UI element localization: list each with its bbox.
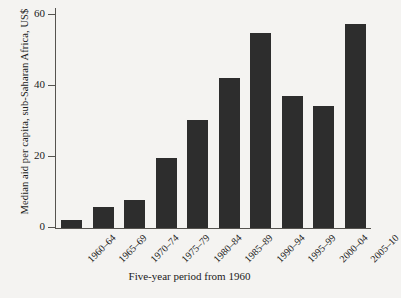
y-tick-label: 20 xyxy=(34,149,45,161)
x-axis-line xyxy=(55,228,371,229)
y-tick: 40 xyxy=(48,85,55,86)
bar-slot xyxy=(88,8,120,228)
bar[interactable] xyxy=(187,120,208,228)
y-axis-title: Median aid per capita, sub-Saharan Afric… xyxy=(19,2,30,222)
bar-slot xyxy=(56,8,88,228)
x-tick-label: 1975–79 xyxy=(179,232,212,265)
bar-slot xyxy=(277,8,309,228)
x-tick-label: 1965–69 xyxy=(116,232,149,265)
bar[interactable] xyxy=(282,96,303,228)
bar[interactable] xyxy=(124,200,145,228)
y-tick-label: 0 xyxy=(40,220,46,232)
y-tick-label: 60 xyxy=(34,7,45,19)
plot-area: 0204060 1960–641965–691970–741975–791980… xyxy=(55,8,371,228)
x-tick-label: 2005–10 xyxy=(368,232,401,265)
bar-series xyxy=(56,8,371,228)
x-tick-label: 2000–04 xyxy=(337,232,370,265)
bar[interactable] xyxy=(61,220,82,228)
y-tick: 60 xyxy=(48,14,55,15)
bar[interactable] xyxy=(156,158,177,228)
bar-slot xyxy=(340,8,372,228)
bar[interactable] xyxy=(313,106,334,228)
x-tick-label: 1990–94 xyxy=(274,232,307,265)
y-tick: 0 xyxy=(48,227,55,228)
x-tick-label: 1970–74 xyxy=(148,232,181,265)
bar-slot xyxy=(245,8,277,228)
x-tick-label: 1980–84 xyxy=(211,232,244,265)
x-tick-label: 1985–89 xyxy=(242,232,275,265)
bar[interactable] xyxy=(250,33,271,228)
bar-slot xyxy=(151,8,183,228)
y-tick: 20 xyxy=(48,156,55,157)
bar-slot xyxy=(119,8,151,228)
bar[interactable] xyxy=(93,207,114,228)
bar-slot xyxy=(308,8,340,228)
x-axis-title: Five-year period from 1960 xyxy=(0,270,379,282)
y-tick-label: 40 xyxy=(34,78,45,90)
bar[interactable] xyxy=(345,24,366,228)
bar-slot xyxy=(182,8,214,228)
x-tick-label: 1995–99 xyxy=(305,232,338,265)
bar[interactable] xyxy=(219,78,240,228)
bar-slot xyxy=(214,8,246,228)
x-tick-label: 1960–64 xyxy=(85,232,118,265)
